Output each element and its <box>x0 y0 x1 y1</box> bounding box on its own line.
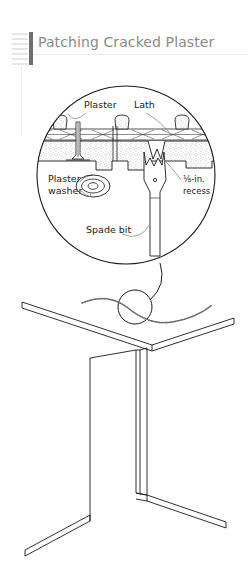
wall-column <box>90 348 147 521</box>
lath-strips <box>28 129 224 140</box>
illustration: Plaster Lath Plaster washer ⅛-in. recess… <box>0 60 251 581</box>
ceiling-crack <box>82 299 212 323</box>
page-title: Patching Cracked Plaster <box>38 33 214 51</box>
page-root: Patching Cracked Plaster <box>0 0 251 581</box>
rail-mark <box>12 53 28 55</box>
label-recess-line2: recess <box>183 186 211 196</box>
rail-mark <box>12 38 28 40</box>
room-drawing <box>22 299 234 556</box>
label-plaster-washer-line1: Plaster <box>48 173 81 184</box>
ceiling-planes <box>22 302 234 351</box>
plaster-layer <box>28 141 224 170</box>
baseboards <box>25 493 226 556</box>
rail-mark <box>12 43 28 45</box>
callout-stem <box>150 263 162 300</box>
spade-bit <box>144 152 166 256</box>
label-plaster-washer-line2: washer <box>48 185 82 196</box>
rail-mark <box>12 33 28 35</box>
plaster-keys <box>53 115 189 129</box>
title-divider <box>33 54 248 55</box>
label-spade-bit: Spade bit <box>86 224 131 235</box>
label-plaster: Plaster <box>84 99 117 110</box>
rail-mark <box>12 48 28 50</box>
label-lath: Lath <box>134 99 155 110</box>
detail-circle-group: Plaster Lath Plaster washer ⅛-in. recess… <box>28 86 224 264</box>
top-faded-text <box>24 0 246 8</box>
label-recess-line1: ⅛-in. <box>183 174 205 184</box>
